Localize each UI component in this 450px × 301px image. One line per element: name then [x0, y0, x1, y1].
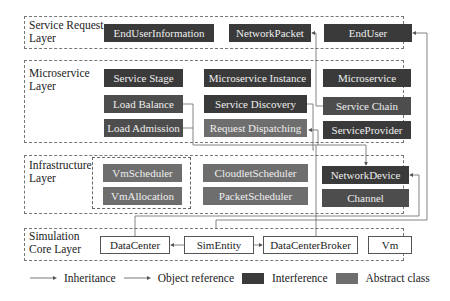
inheritance-arrow-icon	[30, 274, 58, 282]
legend-abstract-class-label: Abstract class	[366, 272, 430, 284]
interference-swatch-icon	[242, 273, 264, 284]
object-reference-arrow-icon	[124, 274, 152, 282]
connector-lines	[0, 0, 450, 301]
legend-object-reference-label: Object reference	[158, 272, 234, 284]
abstract-class-swatch-icon	[336, 273, 358, 284]
legend-inheritance: Inheritance	[30, 272, 116, 284]
legend-interference-label: Interference	[272, 272, 328, 284]
legend-object-reference: Object reference	[124, 272, 234, 284]
legend-interference: Interference	[242, 272, 328, 284]
legend-inheritance-label: Inheritance	[64, 272, 116, 284]
legend: Inheritance Object reference Interferenc…	[30, 272, 438, 284]
legend-abstract-class: Abstract class	[336, 272, 430, 284]
